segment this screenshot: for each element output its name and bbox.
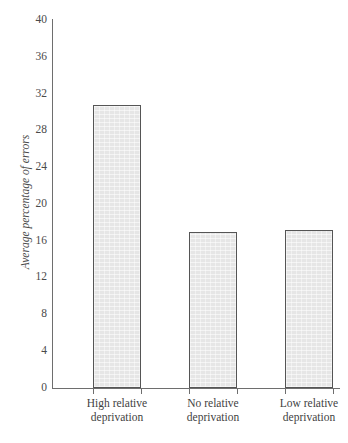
x-tick-mark [333,389,334,394]
y-tick-label-4: 4 [7,345,47,357]
y-tick-label-24: 24 [7,161,47,173]
y-tick-label-32: 32 [7,88,47,100]
cropped-bottom-caption [0,432,348,443]
y-tick-label-36: 36 [7,51,47,63]
x-category-label-low: Low relative deprivation [249,396,348,424]
cropped-top-artifact [84,0,98,5]
y-tick-label-40: 40 [7,14,47,26]
x-tick-mark [285,389,286,394]
x-axis-line [52,388,340,389]
x-tick-mark [93,389,94,394]
y-tick-label-12: 12 [7,271,47,283]
y-tick-label-8: 8 [7,308,47,320]
x-category-label-line2: deprivation [249,410,348,424]
x-category-label-line1: Low relative [249,396,348,410]
x-tick-mark [237,389,238,394]
y-tick-label-28: 28 [7,124,47,136]
y-tick-label-16: 16 [7,235,47,247]
plot-area [53,20,339,388]
bar-no-relative-deprivation [189,232,237,388]
bar-chart: Average percentage of errors 40 36 32 28… [0,0,348,443]
x-tick-mark [141,389,142,394]
bar-high-relative-deprivation [93,105,141,388]
bar-low-relative-deprivation [285,230,333,388]
y-tick-label-0: 0 [7,382,47,394]
y-tick-label-20: 20 [7,198,47,210]
x-tick-mark [189,389,190,394]
